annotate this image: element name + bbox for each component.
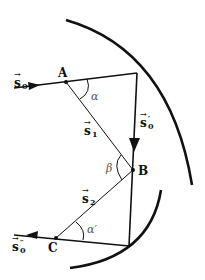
reflected-ray-vertical: [129, 73, 137, 246]
angle-alpha-prime-arc: [76, 222, 84, 240]
point-b-dot: [131, 168, 135, 172]
svg-text:0: 0: [22, 81, 28, 91]
point-b-label: B: [138, 164, 148, 178]
angle-beta-arc: [117, 155, 122, 180]
point-c-dot: [54, 236, 58, 240]
outgoing-arrowhead: [26, 231, 38, 239]
vector-s1-line: [66, 82, 133, 170]
svg-text:s: s: [140, 116, 147, 130]
vector-s2-label: → s 2: [82, 185, 96, 207]
reflection-diagram: A B C α β α′ → s 0 → s 0 ′ → s 1 → s 2 →…: [0, 0, 205, 280]
point-a-dot: [64, 80, 68, 84]
vector-s0-prime-label: → s 0 ′: [140, 109, 154, 131]
large-mirror-arc: [66, 20, 192, 185]
svg-text:s: s: [14, 76, 21, 90]
svg-text:1: 1: [92, 129, 98, 139]
angle-alpha-arc: [80, 79, 88, 99]
svg-text:″: ″: [20, 237, 24, 247]
svg-text:s: s: [84, 124, 91, 138]
svg-text:′: ′: [148, 113, 150, 123]
point-c-label: C: [48, 241, 58, 255]
svg-text:s: s: [12, 240, 19, 254]
svg-text:s: s: [82, 192, 89, 206]
angle-beta-label: β: [105, 162, 112, 175]
angle-alpha-label: α: [91, 90, 99, 103]
vertical-arrowhead: [129, 138, 140, 152]
angle-alpha-prime-label: α′: [87, 223, 97, 236]
incoming-arrowhead: [28, 82, 40, 90]
svg-text:2: 2: [90, 197, 96, 207]
point-a-label: A: [57, 66, 68, 80]
